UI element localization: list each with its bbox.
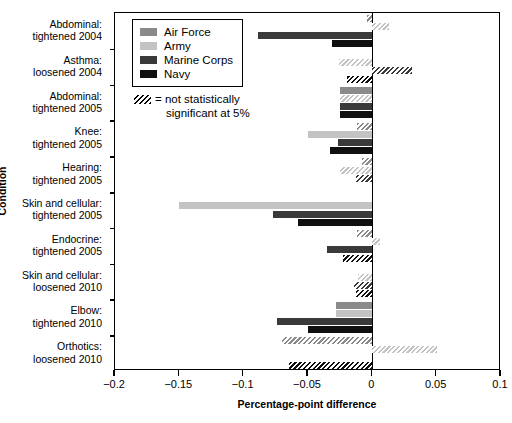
bar-navy-0 [332, 40, 372, 47]
x-axis-tick-label: −0.1 [232, 378, 254, 390]
legend-item-army: Army [140, 39, 233, 53]
y-axis-category-label: Hearing:tightened 2005 [0, 161, 102, 186]
x-axis-tick [242, 370, 244, 376]
x-axis-title: Percentage-point difference [114, 398, 500, 410]
bar-usmc-3 [338, 139, 373, 146]
bar-af-0 [367, 15, 372, 22]
bar-usmc-0 [258, 32, 373, 39]
x-axis-tick-label: 0 [368, 378, 374, 390]
significance-note-text: = not statistically significant at 5% [155, 93, 250, 120]
y-axis-tick [110, 264, 115, 266]
bar-usmc-2 [340, 103, 372, 110]
legend-item-air-force: Air Force [140, 25, 233, 39]
y-axis-category-line: Skin and cellular: [0, 268, 102, 281]
y-axis-category-line: tightened 2005 [0, 209, 102, 222]
y-axis-category-line: tightened 2005 [0, 102, 102, 115]
bar-af-6 [357, 230, 372, 237]
y-axis-labels: Abdominal:tightened 2004Asthma:loosened … [0, 12, 112, 370]
y-axis-category-line: loosened 2010 [0, 352, 102, 365]
legend-item-navy: Navy [140, 67, 233, 81]
y-axis-category-label: Skin and cellular:tightened 2005 [0, 196, 102, 221]
bar-army-4 [340, 167, 372, 174]
y-axis-category-line: tightened 2005 [0, 245, 102, 258]
y-axis-category-label: Abdominal:tightened 2004 [0, 17, 102, 42]
x-axis-tick [371, 370, 373, 376]
bar-army-7 [358, 274, 372, 281]
legend-item-marine-corps: Marine Corps [140, 53, 233, 67]
bar-usmc-6 [327, 246, 372, 253]
x-axis-tick [178, 370, 180, 376]
x-axis-tick-label: 0.1 [492, 378, 507, 390]
bar-navy-1 [347, 76, 373, 83]
y-axis-category-line: Abdominal: [0, 17, 102, 30]
significance-note-line2: significant at 5% [155, 107, 250, 121]
y-axis-tick [110, 335, 115, 337]
bar-af-9 [282, 337, 372, 344]
bar-army-3 [308, 131, 372, 138]
x-axis-tick [499, 370, 501, 376]
y-axis-category-line: Elbow: [0, 304, 102, 317]
bar-usmc-4 [356, 175, 373, 182]
y-axis-category-label: Orthotics:loosened 2010 [0, 340, 102, 365]
y-axis-category-label: Elbow:tightened 2010 [0, 304, 102, 329]
bar-af-2 [340, 87, 372, 94]
y-axis-category-line: loosened 2010 [0, 281, 102, 294]
bar-army-2 [340, 95, 372, 102]
x-axis-tick [306, 370, 308, 376]
legend-swatch-icon [140, 42, 157, 50]
y-axis-tick [110, 156, 115, 158]
y-axis-category-line: tightened 2005 [0, 137, 102, 150]
bar-navy-9 [289, 362, 373, 369]
significance-note: = not statistically significant at 5% [134, 93, 250, 120]
bar-af-4 [362, 158, 372, 165]
bar-navy-8 [308, 326, 372, 333]
bar-army-8 [336, 310, 372, 317]
bar-usmc-8 [277, 318, 372, 325]
x-axis-tick-label: −0.2 [103, 378, 125, 390]
legend-label: Marine Corps [164, 54, 233, 66]
bar-navy-7 [356, 290, 373, 297]
y-axis-category-label: Asthma:loosened 2004 [0, 53, 102, 78]
y-axis-category-line: Orthotics: [0, 340, 102, 353]
y-axis-category-line: loosened 2004 [0, 66, 102, 79]
y-axis-category-line: Abdominal: [0, 89, 102, 102]
bar-chart: Condition Abdominal:tightened 2004Asthma… [0, 0, 512, 423]
y-axis-tick [110, 49, 115, 51]
y-axis-category-line: Skin and cellular: [0, 196, 102, 209]
y-axis-category-line: Endocrine: [0, 232, 102, 245]
bar-army-9 [372, 346, 436, 353]
legend: Air ForceArmyMarine CorpsNavy [132, 19, 243, 87]
x-axis-tick-label: −0.05 [293, 378, 321, 390]
x-axis: −0.2−0.15−0.1−0.0500.050.1 Percentage-po… [114, 370, 500, 420]
bar-usmc-7 [354, 282, 372, 289]
bar-af-3 [357, 123, 372, 130]
y-axis-category-label: Abdominal:tightened 2005 [0, 89, 102, 114]
legend-swatch-icon [140, 56, 157, 64]
bar-navy-5 [298, 219, 373, 226]
significance-note-line1: = not statistically [155, 93, 250, 107]
bar-army-5 [179, 202, 372, 209]
legend-label: Air Force [164, 26, 211, 38]
y-axis-category-line: Hearing: [0, 161, 102, 174]
bar-army-1 [339, 59, 372, 66]
y-axis-tick [110, 228, 115, 230]
plot-area: Air ForceArmyMarine CorpsNavy = not stat… [114, 12, 500, 370]
hatch-pattern-icon [134, 95, 151, 104]
y-axis-category-line: tightened 2005 [0, 173, 102, 186]
legend-label: Navy [164, 68, 190, 80]
bar-af-8 [336, 302, 372, 309]
y-axis-tick [110, 85, 115, 87]
y-axis-category-label: Skin and cellular:loosened 2010 [0, 268, 102, 293]
x-axis-tick-label: 0.05 [425, 378, 446, 390]
bar-usmc-5 [273, 211, 372, 218]
bar-navy-3 [330, 147, 372, 154]
y-axis-category-line: Asthma: [0, 53, 102, 66]
y-axis-tick [110, 299, 115, 301]
legend-swatch-icon [140, 70, 157, 78]
x-axis-tick [435, 370, 437, 376]
x-axis-tick [113, 370, 115, 376]
bar-navy-2 [340, 111, 372, 118]
y-axis-category-line: tightened 2010 [0, 316, 102, 329]
x-axis-tick-label: −0.15 [164, 378, 192, 390]
bar-usmc-1 [372, 67, 412, 74]
